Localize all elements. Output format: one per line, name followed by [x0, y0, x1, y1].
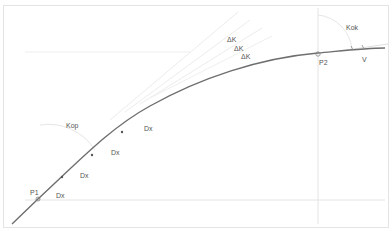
segment-mark-2 — [91, 154, 93, 156]
tangent-ray-4 — [150, 36, 272, 98]
label-kok: Kok — [346, 24, 358, 31]
label-v: V — [362, 56, 367, 63]
tangent-ray-3 — [140, 28, 262, 104]
kok-angle-arc — [318, 15, 352, 49]
label-p2: P2 — [319, 59, 328, 66]
trajectory-curve — [12, 48, 385, 224]
label-dx-4: Dx — [144, 125, 153, 132]
segment-mark-3 — [121, 131, 123, 133]
label-dk-1: ΔK — [227, 36, 236, 43]
label-dx-3: Dx — [111, 149, 120, 156]
label-dk-2: ΔK — [234, 45, 243, 52]
tangent-ray-2 — [125, 20, 250, 112]
tangent-ray-1 — [110, 12, 238, 120]
label-dk-3: ΔK — [241, 53, 250, 60]
segment-mark-1 — [61, 176, 63, 178]
label-p1: P1 — [30, 189, 39, 196]
label-kop: Kop — [66, 122, 78, 129]
label-dx-1: Dx — [56, 192, 65, 199]
label-dx-2: Dx — [80, 172, 89, 179]
